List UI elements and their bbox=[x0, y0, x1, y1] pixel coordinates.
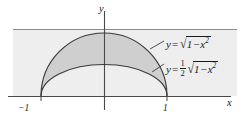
inner-label-coefficient-fraction: 12 bbox=[180, 59, 186, 77]
inner-label-minus: − bbox=[199, 63, 207, 75]
inner-label-exponent: 2 bbox=[213, 62, 217, 70]
figure-container: y=√1−x2 y=12√1−x2 −1 1 y x bbox=[0, 0, 245, 132]
outer-label-equals: = bbox=[171, 38, 179, 50]
sqrt-icon: √ bbox=[180, 37, 187, 50]
fraction-denominator: 2 bbox=[180, 69, 186, 78]
inner-label-radical: √1−x2 bbox=[186, 61, 218, 76]
outer-label-radical: √1−x2 bbox=[179, 36, 211, 51]
inner-label-radicand: 1−x2 bbox=[193, 61, 218, 75]
x-tick-label-positive-one: 1 bbox=[163, 104, 168, 114]
x-axis-label: x bbox=[227, 98, 232, 109]
inner-label-equals: = bbox=[171, 63, 179, 75]
x-tick-label-negative-one: −1 bbox=[18, 104, 29, 114]
outer-label-radicand: 1−x2 bbox=[186, 36, 211, 50]
inner-curve-label: y=12√1−x2 bbox=[166, 59, 218, 77]
sqrt-icon: √ bbox=[187, 62, 194, 75]
outer-curve-label: y=√1−x2 bbox=[166, 36, 211, 51]
y-axis-label: y bbox=[99, 4, 104, 15]
outer-label-exponent: 2 bbox=[205, 37, 209, 45]
